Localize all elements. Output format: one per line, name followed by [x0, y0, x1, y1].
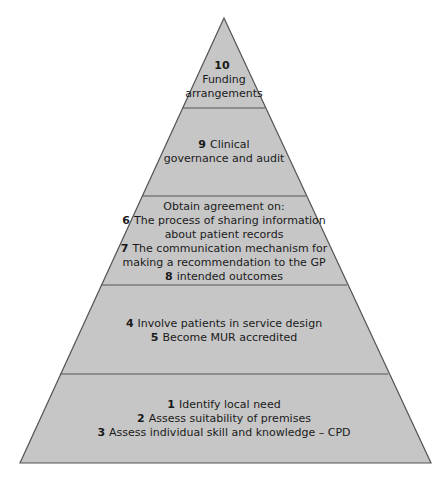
step-number: 5 [151, 331, 159, 344]
step-text: Assess individual skill and knowledge – … [109, 426, 350, 439]
level-4-text: 4Involve patients in service design 5Bec… [0, 317, 448, 345]
step-text: Identify local need [179, 398, 281, 411]
level-4-line-2: 5Become MUR accredited [0, 331, 448, 345]
level-base-text: 1Identify local need 2Assess suitability… [0, 398, 448, 440]
level-3-line-2: 6The process of sharing information [0, 214, 448, 228]
step-number: 7 [121, 242, 129, 255]
level-3-heading: Obtain agreement on: [0, 200, 448, 214]
level-3-text: Obtain agreement on: 6The process of sha… [0, 200, 448, 284]
step-text: The communication mechanism for [132, 242, 327, 255]
step-number: 8 [165, 270, 173, 283]
step-number: 10 [214, 59, 229, 72]
level-2-line-1: 9Clinical [0, 138, 448, 152]
step-number: 6 [122, 214, 130, 227]
step-text: Involve patients in service design [138, 317, 323, 330]
step-text: Become MUR accredited [162, 331, 297, 344]
level-3-line-3: about patient records [0, 228, 448, 242]
step-text: The process of sharing information [134, 214, 326, 227]
step-number: 3 [97, 426, 105, 439]
level-top-text: 10 Funding arrangements [0, 59, 448, 101]
level-base-line-2: 2Assess suitability of premises [0, 412, 448, 426]
step-number: 2 [137, 412, 145, 425]
level-base-line-1: 1Identify local need [0, 398, 448, 412]
level-top-line-3: arrangements [0, 87, 448, 101]
level-3-line-6: 8intended outcomes [0, 270, 448, 284]
level-4-line-1: 4Involve patients in service design [0, 317, 448, 331]
level-2-line-2: governance and audit [0, 152, 448, 166]
step-number: 9 [198, 138, 206, 151]
level-top-line-1: 10 [0, 59, 448, 73]
step-text: intended outcomes [177, 270, 283, 283]
level-3-line-4: 7The communication mechanism for [0, 242, 448, 256]
level-base-line-3: 3Assess individual skill and knowledge –… [0, 426, 448, 440]
step-text: Assess suitability of premises [149, 412, 311, 425]
step-number: 4 [126, 317, 134, 330]
step-text: Clinical [210, 138, 250, 151]
level-3-line-5: making a recommendation to the GP [0, 256, 448, 270]
step-number: 1 [167, 398, 175, 411]
level-top-line-2: Funding [0, 73, 448, 87]
level-2-text: 9Clinical governance and audit [0, 138, 448, 166]
